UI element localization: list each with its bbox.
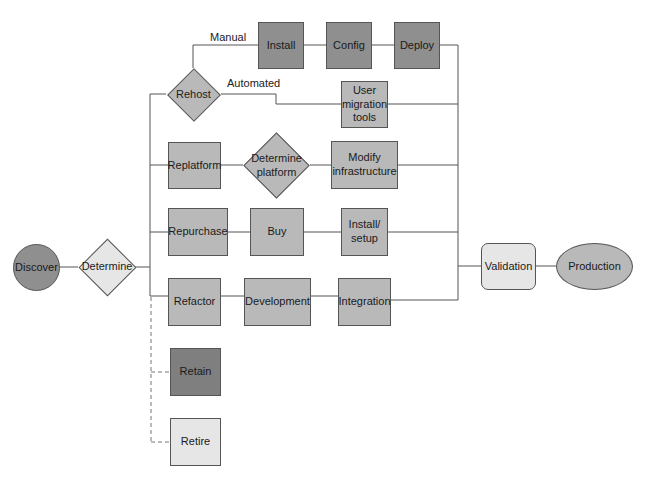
node-deploy: Deploy — [394, 22, 440, 69]
node-validation: Validation — [481, 243, 536, 290]
node-determine-label: Determine — [82, 260, 133, 273]
node-install: Install — [258, 22, 304, 69]
node-determine: Determine — [78, 238, 136, 296]
node-discover: Discover — [13, 244, 60, 291]
node-retain: Retain — [170, 348, 221, 396]
node-modify-infrastructure: Modify infrastructure — [331, 141, 398, 189]
node-development: Development — [244, 278, 311, 326]
edge-label-manual: Manual — [210, 31, 246, 43]
node-repurchase: Repurchase — [168, 208, 228, 256]
node-production: Production — [556, 243, 633, 290]
node-rehost-label: Rehost — [176, 88, 211, 101]
node-retire: Retire — [170, 418, 221, 466]
edge-label-automated: Automated — [227, 77, 280, 89]
node-replatform: Replatform — [168, 142, 221, 189]
node-refactor: Refactor — [168, 278, 221, 326]
node-integration: Integration — [338, 278, 391, 326]
node-rehost: Rehost — [166, 67, 221, 122]
node-user-migration-tools: User migration tools — [341, 81, 388, 128]
node-config: Config — [326, 22, 372, 69]
node-determine-platform: Determine platform — [243, 132, 310, 199]
node-buy: Buy — [250, 208, 304, 256]
node-install-setup: Install/ setup — [341, 208, 388, 256]
node-determine-platform-label: Determine platform — [247, 152, 307, 178]
